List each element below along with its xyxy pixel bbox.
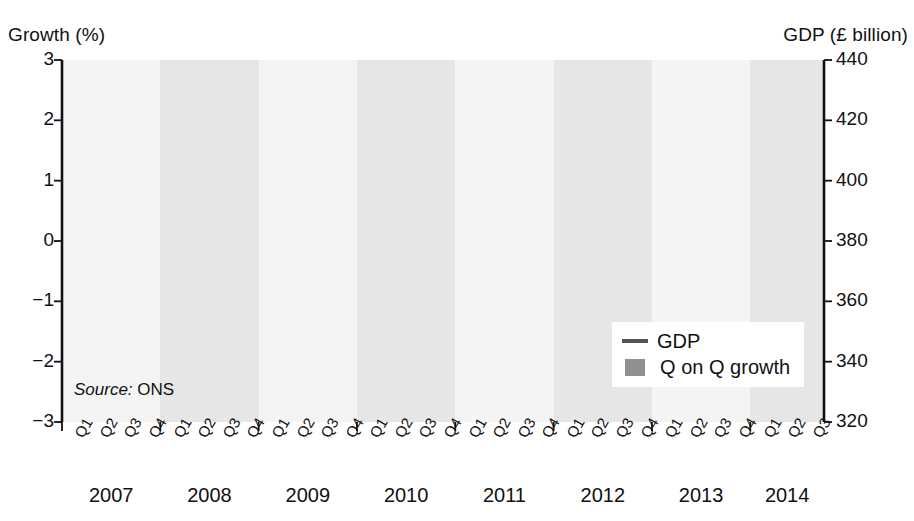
year-band	[259, 60, 357, 422]
left-axis-title: Growth (%)	[8, 24, 105, 46]
year-axis-label: 2011	[459, 484, 549, 507]
year-axis-label: 2008	[164, 484, 254, 507]
right-axis-title: GDP (£ billion)	[783, 24, 908, 46]
y-tick-label-left: 3	[10, 48, 54, 70]
y-tick-label-right: 360	[836, 289, 868, 311]
y-tick-label-right: 400	[836, 169, 868, 191]
source-note: Source: ONS	[74, 380, 174, 400]
year-axis-label: 2009	[263, 484, 353, 507]
line-swatch-icon	[622, 339, 648, 343]
year-band	[357, 60, 455, 422]
y-tick-label-right: 440	[836, 48, 868, 70]
year-axis-label: 2012	[558, 484, 648, 507]
y-tick-label-left: 0	[10, 229, 54, 251]
y-tick-label-right: 380	[836, 229, 868, 251]
y-tick-label-left: −2	[10, 350, 54, 372]
left-axis-line	[60, 60, 64, 422]
y-tick-label-right: 340	[836, 350, 868, 372]
chart-legend: GDP Q on Q growth	[612, 322, 804, 387]
y-tick-label-left: −1	[10, 289, 54, 311]
legend-label-growth: Q on Q growth	[660, 356, 790, 379]
gdp-growth-chart: Growth (%) GDP (£ billion) 3210−1−2−3 44…	[0, 0, 914, 521]
y-tick-label-left: 1	[10, 169, 54, 191]
y-tick-label-left: 2	[10, 108, 54, 130]
year-band	[160, 60, 258, 422]
source-value: ONS	[137, 380, 174, 399]
source-prefix: Source:	[74, 380, 133, 399]
year-axis-label: 2014	[742, 484, 832, 507]
y-tick-label-right: 420	[836, 108, 868, 130]
y-tick-label-right: 320	[836, 410, 868, 432]
year-band	[455, 60, 553, 422]
y-tick-label-left: −3	[10, 410, 54, 432]
year-axis-label: 2010	[361, 484, 451, 507]
right-axis-line	[822, 60, 826, 422]
legend-label-gdp: GDP	[657, 330, 700, 353]
bar-swatch-icon	[625, 359, 645, 376]
legend-item-gdp: GDP	[622, 328, 790, 354]
year-axis-label: 2007	[66, 484, 156, 507]
year-axis-label: 2013	[656, 484, 746, 507]
legend-item-growth: Q on Q growth	[622, 354, 790, 380]
year-band	[62, 60, 160, 422]
